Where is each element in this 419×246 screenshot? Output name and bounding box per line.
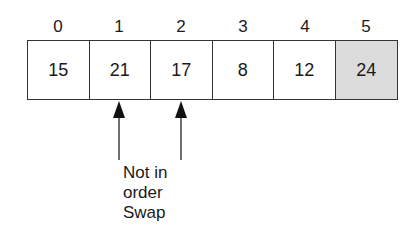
annotation-line-3: Swap bbox=[123, 203, 167, 223]
annotation-line-1: Not in bbox=[123, 163, 167, 183]
annotation-line-2: order bbox=[123, 183, 167, 203]
arrow-up-icon bbox=[175, 101, 187, 160]
annotation-text: Not in order Swap bbox=[123, 163, 167, 223]
arrow-up-icon bbox=[113, 101, 125, 160]
pointer-arrows bbox=[0, 0, 419, 246]
